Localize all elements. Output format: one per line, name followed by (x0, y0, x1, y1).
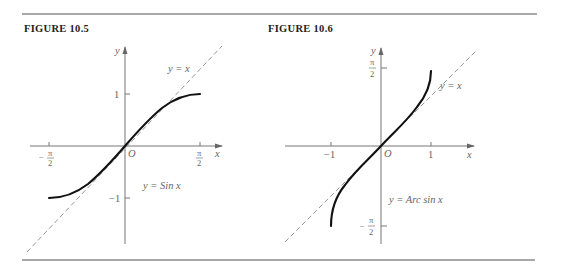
figure-10-5: FIGURE 10.5 x y O − π 2 π 2 1 −1 y = x y… (24, 23, 222, 252)
figure-title: FIGURE 10.5 (24, 23, 89, 34)
y-tick-label-sign: − (360, 221, 365, 231)
x-axis-label: x (214, 148, 220, 159)
origin-label: O (128, 148, 136, 159)
y-axis-label: y (114, 45, 120, 56)
x-tick-label-den: 2 (48, 158, 52, 168)
x-tick-label-sign: − (39, 152, 44, 162)
curve-label: y = Sin x (142, 180, 181, 191)
y-axis-label: y (370, 45, 376, 56)
figure-10-6: FIGURE 10.6 x y O −1 1 π 2 − π 2 y = x y… (268, 23, 477, 244)
figure-title: FIGURE 10.6 (268, 23, 333, 34)
y-tick-label: −1 (109, 193, 120, 204)
y-tick-label-num: π (369, 215, 374, 225)
y-tick-label-num: π (370, 57, 375, 67)
identity-line-label: y = x (439, 80, 462, 91)
x-axis-label: x (466, 149, 472, 160)
y-tick-label-den: 2 (369, 227, 373, 237)
x-tick-label-num: π (197, 148, 202, 158)
curve-label: y = Arc sin x (388, 194, 443, 205)
y-tick-label: 1 (114, 89, 119, 100)
identity-line-label: y = x (167, 63, 190, 74)
x-tick-label: 1 (428, 149, 433, 160)
origin-label: O (384, 148, 392, 159)
y-tick-label-den: 2 (370, 69, 374, 79)
x-tick-label: −1 (324, 149, 335, 160)
x-tick-label-num: π (48, 148, 53, 158)
figure-page: FIGURE 10.5 x y O − π 2 π 2 1 −1 y = x y… (0, 0, 561, 270)
x-tick-label-den: 2 (197, 158, 201, 168)
